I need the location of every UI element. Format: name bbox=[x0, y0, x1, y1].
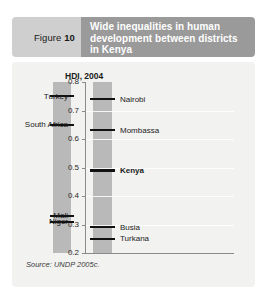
source-note: Source: UNDP 2005c. bbox=[26, 260, 100, 269]
figure-number-text: Figure 10 bbox=[34, 32, 75, 43]
y-tick-mark bbox=[82, 225, 85, 226]
figure-container: Figure 10 Wide inequalities in human dev… bbox=[0, 0, 267, 303]
y-tick-label: 0.6 bbox=[57, 135, 79, 143]
marker-nairobi bbox=[90, 98, 115, 100]
y-tick-mark bbox=[82, 82, 85, 83]
marker-label-turkana: Turkana bbox=[120, 234, 149, 243]
gridline bbox=[86, 168, 234, 169]
gridline bbox=[86, 139, 234, 140]
y-tick-label: 0.2 bbox=[57, 249, 79, 257]
chart-panel: HDI, 2004 0.80.70.60.50.40.30.2TurkeySou… bbox=[12, 62, 255, 287]
figure-title: Wide inequalities in human development b… bbox=[90, 21, 249, 56]
y-tick-mark bbox=[82, 111, 85, 112]
gridline bbox=[86, 196, 234, 197]
y-tick-label: 0.4 bbox=[57, 192, 79, 200]
plot-area: HDI, 2004 0.80.70.60.50.40.30.2TurkeySou… bbox=[12, 62, 255, 287]
y-tick-mark bbox=[82, 196, 85, 197]
marker-label-nairobi: Nairobi bbox=[120, 95, 145, 104]
figure-title-box: Wide inequalities in human development b… bbox=[81, 17, 255, 57]
y-tick-mark bbox=[82, 168, 85, 169]
marker-label-turkey: Turkey bbox=[44, 92, 68, 101]
marker-label-south-africa: South Africa bbox=[25, 120, 68, 129]
x-axis-line bbox=[85, 253, 234, 254]
gridline bbox=[86, 225, 234, 226]
marker-busia bbox=[90, 226, 115, 228]
marker-kenya bbox=[90, 169, 115, 172]
y-tick-mark bbox=[82, 253, 85, 254]
figure-number: 10 bbox=[64, 32, 75, 43]
marker-label-kenya: Kenya bbox=[120, 166, 144, 175]
marker-label-busia: Busia bbox=[120, 223, 140, 232]
y-tick-label: 0.8 bbox=[57, 78, 79, 86]
gridline bbox=[86, 111, 234, 112]
marker-label-niger: Niger bbox=[49, 217, 68, 226]
marker-mombassa bbox=[90, 129, 115, 131]
y-tick-label: 0.5 bbox=[57, 164, 79, 172]
figure-header: Figure 10 Wide inequalities in human dev… bbox=[12, 17, 255, 57]
figure-label: Figure bbox=[34, 32, 62, 43]
figure-number-box: Figure 10 bbox=[12, 17, 81, 57]
marker-label-mombassa: Mombassa bbox=[120, 126, 159, 135]
y-tick-mark bbox=[82, 139, 85, 140]
marker-turkana bbox=[90, 238, 115, 240]
y-tick-label: 0.7 bbox=[57, 107, 79, 115]
